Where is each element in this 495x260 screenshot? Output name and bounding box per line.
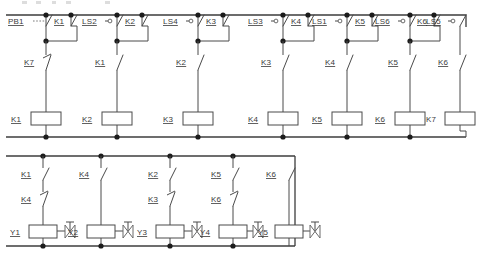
k7-label: K7: [24, 58, 35, 67]
coil-k7[interactable]: [445, 112, 475, 125]
ls4-label: LS4: [163, 17, 178, 26]
solenoid-y4[interactable]: [219, 225, 247, 238]
clipped-top-glyphs: [22, 1, 110, 4]
k5-valve-label: K5: [211, 170, 222, 179]
k4-series-label: K4: [325, 58, 336, 67]
ls6-roller-icon: [401, 19, 405, 23]
coil-k7-label: K7: [426, 115, 437, 124]
k1-series-blade[interactable]: [117, 55, 123, 70]
k2-valve-label: K2: [148, 170, 159, 179]
k6-valve2-label: K6: [266, 170, 277, 179]
k2-valve-blade[interactable]: [170, 168, 176, 180]
valve-rung-4: K5 K6 Y4: [200, 153, 263, 248]
k4-series-blade[interactable]: [347, 55, 353, 70]
coil-k1-label: K1: [11, 115, 22, 124]
junction-dot: [195, 12, 200, 17]
k5-valve-blade[interactable]: [233, 168, 239, 180]
solenoid-y1[interactable]: [29, 225, 57, 238]
solenoid-y3[interactable]: [156, 225, 184, 238]
coil-k5-label: K5: [312, 115, 323, 124]
junction-dot: [280, 134, 285, 139]
ls6-label: LS6: [375, 17, 390, 26]
ls2-label: LS2: [82, 17, 97, 26]
junction-dot: [305, 12, 310, 17]
coil-k2-label: K2: [82, 115, 93, 124]
ls5-blade[interactable]: [460, 15, 466, 26]
top-power-rail: [6, 15, 466, 27]
ls5-roller-icon: [451, 19, 455, 23]
k6-series-label: K6: [438, 58, 449, 67]
ls4-roller-icon: [189, 19, 193, 23]
k3-series-label: K3: [261, 58, 272, 67]
solenoid-y3-label: Y3: [137, 228, 148, 237]
junction-dot: [114, 12, 119, 17]
k6-valve-label: K6: [211, 195, 222, 204]
k3-seal-return: [198, 26, 229, 41]
rung-7: LS5 K6 K7: [426, 15, 475, 137]
valve-rung-5: K6 Y5: [258, 168, 320, 246]
pb1-label: PB1: [8, 17, 24, 26]
junction-dot: [139, 12, 144, 17]
k4-seal-return: [283, 26, 314, 41]
ls1-roller-icon: [338, 19, 342, 23]
valve-rung-1: K1 K4 Y1: [10, 153, 75, 248]
k6-valve-blade[interactable]: [233, 192, 238, 206]
solenoid-y5[interactable]: [275, 225, 303, 238]
k2-seal-return: [117, 26, 148, 41]
k6-valve2-blade[interactable]: [289, 168, 295, 180]
solenoid-y5-label: Y5: [258, 228, 269, 237]
solenoid-y1-label: Y1: [10, 228, 21, 237]
solenoid-y2-label: Y2: [68, 228, 79, 237]
rung-7-return: [460, 125, 466, 137]
junction-dot: [40, 243, 45, 248]
coil-k4[interactable]: [268, 112, 298, 125]
k4-valve-blade[interactable]: [43, 192, 48, 206]
junction-dot: [220, 12, 225, 17]
solenoid-y4-label: Y4: [200, 228, 211, 237]
coil-k5[interactable]: [332, 112, 362, 125]
junction-dot: [43, 12, 48, 17]
k1-valve-label: K1: [21, 170, 32, 179]
ls5-label: LS5: [426, 17, 441, 26]
k4-valve2-blade[interactable]: [101, 168, 107, 180]
junction-dot: [98, 243, 103, 248]
coil-k6-label: K6: [375, 115, 386, 124]
k3-seal-label: K3: [206, 17, 217, 26]
k5-series-label: K5: [388, 58, 399, 67]
coil-k6[interactable]: [395, 112, 425, 125]
junction-dot: [230, 243, 235, 248]
coil-k2[interactable]: [102, 112, 132, 125]
k3-valve-label: K3: [148, 195, 159, 204]
junction-dot: [43, 134, 48, 139]
junction-dot: [407, 12, 412, 17]
solenoid-y2[interactable]: [87, 225, 115, 238]
valve-body-icon: [123, 222, 133, 238]
ls1-label: LS1: [312, 17, 327, 26]
rung-3: LS4 K3 K2 K3: [163, 12, 229, 139]
k2-seal-label: K2: [125, 17, 136, 26]
k6-series-blade[interactable]: [460, 55, 466, 70]
k5-seal-label: K5: [355, 17, 366, 26]
coil-k4-label: K4: [248, 115, 259, 124]
coil-k1[interactable]: [31, 112, 61, 125]
k2-series-blade[interactable]: [198, 55, 204, 70]
k5-series-blade[interactable]: [410, 55, 416, 70]
ls3-roller-icon: [274, 19, 278, 23]
valve-rung-3: K2 K3 Y3: [137, 153, 202, 248]
coil-k3[interactable]: [183, 112, 213, 125]
k1-series-label: K1: [95, 58, 106, 67]
k6-seal-return: [410, 26, 440, 41]
k1-seal-return: [46, 26, 77, 41]
k3-valve-blade[interactable]: [170, 192, 175, 206]
k4-seal-label: K4: [291, 17, 302, 26]
valve-rung-2: K4 Y2: [68, 153, 133, 248]
rung-5: LS1 K5 K4 K5: [312, 12, 378, 139]
upper-section: PB1 K1 K7 K1: [6, 1, 475, 140]
lower-section: K1 K4 Y1: [6, 153, 320, 248]
schematic-canvas: PB1 K1 K7 K1: [0, 0, 495, 260]
junction-dot: [407, 134, 412, 139]
k1-valve-blade[interactable]: [43, 168, 49, 180]
k7-blade[interactable]: [46, 55, 51, 70]
junction-dot: [280, 12, 285, 17]
k3-series-blade[interactable]: [283, 55, 289, 70]
